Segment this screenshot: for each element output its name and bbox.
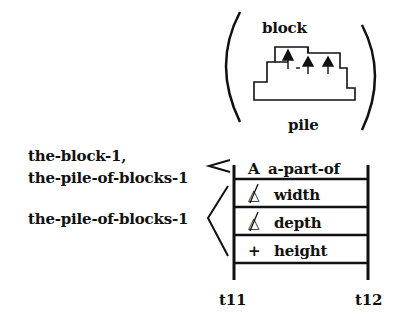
big-angle-bracket — [208, 186, 228, 256]
left-label-2: the-pile-of-blocks-1 — [28, 211, 188, 227]
right-paren — [362, 25, 375, 130]
left-label-1b: the-pile-of-blocks-1 — [28, 170, 188, 186]
row-label-2: depth — [274, 215, 321, 231]
pile-label: pile — [288, 117, 319, 133]
row-symbol-3: + — [248, 243, 260, 259]
left-label-1a: the-block-1, — [28, 148, 126, 164]
row-label-0: a-part-of — [268, 161, 340, 177]
pile-shape-icon — [254, 47, 355, 100]
time-end-label: t12 — [355, 292, 382, 308]
row-label-3: height — [274, 243, 327, 259]
delta-icon: △ — [248, 187, 259, 203]
row-symbol-0: A — [248, 161, 259, 177]
block-label: block — [262, 20, 307, 36]
time-start-label: t11 — [219, 292, 246, 308]
left-paren — [226, 12, 240, 122]
delta-icon: △ — [248, 215, 259, 231]
row-label-1: width — [274, 187, 320, 203]
less-than-bracket — [209, 160, 230, 172]
